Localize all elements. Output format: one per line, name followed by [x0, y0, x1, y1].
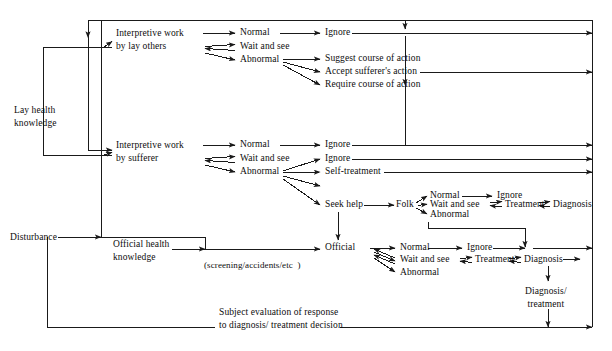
node-lay-wait-and-see: Wait and see: [240, 41, 290, 53]
flowchart-diagram: Lay health knowledge Disturbance Officia…: [0, 0, 612, 351]
node-suggest-course-of-action: Suggest course of action: [325, 53, 421, 65]
node-official-abnormal: Abnormal: [400, 267, 439, 279]
node-sufferer-wait-and-see: Wait and see: [240, 153, 290, 165]
node-official: Official: [325, 242, 355, 254]
node-seek-help: Seek help: [325, 199, 363, 211]
node-official-ignore: Ignore: [467, 242, 492, 254]
node-subject-evaluation: Subject evaluation of response to diagno…: [219, 306, 343, 331]
node-sufferer-normal: Normal: [240, 139, 270, 151]
node-folk: Folk: [396, 199, 414, 211]
node-sufferer-abnormal: Abnormal: [240, 166, 279, 178]
node-folk-treatment: Treatment: [505, 199, 545, 211]
node-require-course-of-action: Require course of action: [325, 79, 421, 91]
node-lay-normal: Normal: [240, 27, 270, 39]
node-diagnosis-treatment: Diagnosis/ treatment: [525, 285, 567, 310]
node-self-treatment: Self-treatment: [325, 166, 381, 178]
node-lay-health-knowledge: Lay health knowledge: [14, 104, 57, 129]
node-lay-abnormal: Abnormal: [240, 54, 279, 66]
node-interpretive-work-sufferer: Interpretive work by sufferer: [116, 139, 184, 164]
node-folk-diagnosis: Diagnosis: [553, 199, 592, 211]
node-interpretive-work-lay-others: Interpretive work by lay others: [116, 27, 184, 52]
node-official-health-knowledge: Official health knowledge: [113, 238, 169, 263]
node-folk-abnormal: Abnormal: [430, 209, 469, 221]
node-official-normal: Normal: [400, 242, 430, 254]
node-sufferer-ignore: Ignore: [325, 153, 350, 165]
node-lay-ignore: Ignore: [325, 27, 350, 39]
node-disturbance: Disturbance: [10, 232, 57, 244]
note-screening-accidents: (screening/accidents/etc ): [204, 260, 301, 272]
node-official-wait-and-see: Wait and see: [400, 254, 450, 266]
node-official-treatment: Treatment: [475, 254, 515, 266]
node-accept-sufferers-action: Accept sufferer's action: [325, 66, 417, 78]
node-official-diagnosis: Diagnosis: [524, 254, 563, 266]
flowchart-connectors: [0, 0, 612, 351]
node-sufferer-ignore-top: Ignore: [325, 139, 350, 151]
